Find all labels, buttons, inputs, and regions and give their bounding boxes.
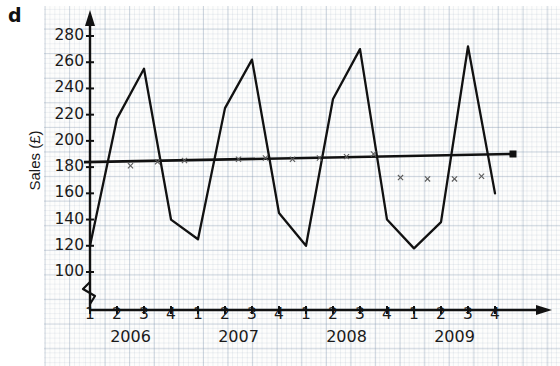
moving-average-x-marker — [452, 176, 457, 181]
moving-average-x-marker — [425, 176, 430, 181]
trend-line-end-marker — [510, 151, 517, 158]
y-axis-arrowhead — [85, 10, 95, 26]
moving-average-x-marker — [479, 174, 484, 179]
trend-line-series — [84, 154, 513, 162]
moving-average-x-marker — [398, 175, 403, 180]
chart-plot-area — [0, 0, 560, 366]
x-axis-arrowhead — [536, 305, 552, 315]
sales-line-series — [90, 46, 495, 248]
moving-average-x-marker — [128, 163, 133, 168]
